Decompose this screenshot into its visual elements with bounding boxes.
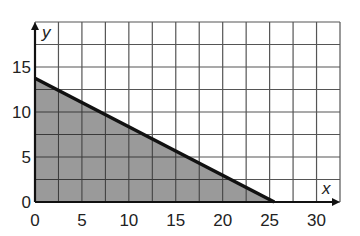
y-tick-label: 0	[22, 193, 31, 212]
x-tick-label: 25	[260, 211, 279, 230]
y-tick-label: 5	[22, 148, 31, 167]
x-tick-label: 5	[77, 211, 86, 230]
x-tick-label: 30	[307, 211, 326, 230]
y-tick-label: 10	[12, 103, 31, 122]
x-tick-label: 0	[30, 211, 39, 230]
y-axis-label: y	[41, 23, 52, 42]
y-tick-label: 15	[12, 58, 31, 77]
chart: 051015202530 051015 x y	[0, 0, 360, 236]
y-tick-labels: 051015	[12, 58, 31, 212]
x-tick-label: 15	[166, 211, 185, 230]
x-tick-label: 20	[213, 211, 232, 230]
x-axis-label: x	[321, 179, 331, 198]
x-tick-labels: 051015202530	[30, 211, 326, 230]
x-tick-label: 10	[119, 211, 138, 230]
